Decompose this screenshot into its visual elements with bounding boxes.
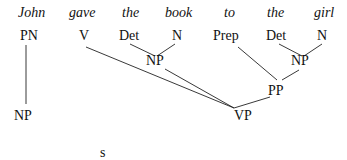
word-john: John [18,5,45,21]
edge-np1-vp [165,69,234,108]
word-girl: girl [314,5,334,21]
node-det1: Det [119,28,139,44]
parse-tree-diagram: Johngavethebooktothegirl PNVDetNNPPrepDe… [0,0,347,160]
node-np2: NP [291,53,309,69]
node-n2: N [317,28,327,44]
node-prep: Prep [213,28,239,44]
word-the: the [122,5,139,21]
node-pn: PN [20,28,38,44]
word-to: to [224,5,235,21]
node-pp: PP [268,83,284,99]
tree-edges [0,0,347,160]
node-np1: NP [146,53,164,69]
node-vp: VP [234,108,252,124]
edge-prep-pp [238,47,277,80]
edge-np2-pp [282,70,299,80]
node-v: V [79,28,89,44]
node-s: s [100,145,105,160]
node-n1: N [172,28,182,44]
word-book: book [165,5,192,21]
edge-pp-vp [234,97,270,108]
word-the: the [267,5,284,21]
node-det2: Det [266,28,286,44]
node-np0: NP [14,108,32,124]
word-gave: gave [69,5,95,21]
